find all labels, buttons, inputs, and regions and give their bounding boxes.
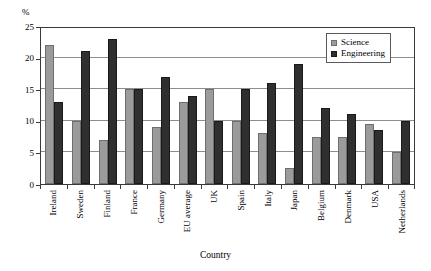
- bar-engineering: [134, 89, 143, 184]
- x-axis-category-label: Netherlands: [397, 190, 406, 233]
- bar-science: [392, 152, 401, 184]
- x-axis-label-cell: Denmark: [335, 190, 362, 246]
- bar-engineering: [267, 83, 276, 184]
- bar-group: [227, 28, 254, 184]
- legend-swatch-icon: [331, 51, 337, 57]
- bar-science: [125, 89, 134, 184]
- x-axis-category-label: Sweden: [76, 190, 85, 219]
- bar-engineering: [374, 130, 383, 184]
- bar-engineering: [294, 64, 303, 184]
- x-axis-category-label: France: [129, 190, 138, 215]
- bar-science: [99, 140, 108, 184]
- legend-label: Science: [341, 37, 369, 48]
- x-axis-label-cell: Sweden: [67, 190, 94, 246]
- bar-engineering: [321, 108, 330, 184]
- legend-swatch-icon: [331, 40, 337, 46]
- x-axis-label-cell: USA: [361, 190, 388, 246]
- x-axis-title: Country: [0, 250, 431, 260]
- x-axis-label-cell: Spain: [227, 190, 254, 246]
- bar-group: [254, 28, 281, 184]
- bar-group: [94, 28, 121, 184]
- bar-engineering: [214, 121, 223, 184]
- x-axis-label-cell: Japan: [281, 190, 308, 246]
- bar-science: [258, 133, 267, 184]
- y-axis-tick-label: 0: [8, 181, 34, 190]
- bar-group: [387, 28, 414, 184]
- bar-science: [312, 137, 321, 184]
- bar-science: [45, 45, 54, 184]
- x-axis-label-cell: Finland: [94, 190, 121, 246]
- x-axis-label-cell: Netherlands: [388, 190, 415, 246]
- bar-engineering: [54, 102, 63, 184]
- y-axis-tick-label: 20: [8, 54, 34, 63]
- x-axis-category-label: Germany: [156, 190, 165, 224]
- bar-group: [281, 28, 308, 184]
- x-axis-label-cell: EU average: [174, 190, 201, 246]
- bar-science: [72, 121, 81, 184]
- bar-group: [41, 28, 68, 184]
- chart-legend: ScienceEngineering: [326, 33, 391, 63]
- bar-engineering: [81, 51, 90, 184]
- x-axis-label-cell: Germany: [147, 190, 174, 246]
- bar-engineering: [188, 96, 197, 184]
- legend-label: Engineering: [341, 48, 385, 59]
- bar-science: [152, 127, 161, 184]
- bar-science: [365, 124, 374, 184]
- x-axis-category-label: Italy: [263, 190, 272, 207]
- x-axis-category-label: Belgium: [317, 190, 326, 221]
- y-axis-unit-label: %: [22, 8, 30, 17]
- bar-engineering: [347, 114, 356, 184]
- x-axis-category-label: Spain: [236, 190, 245, 211]
- y-axis-tick-label: 10: [8, 117, 34, 126]
- bar-group: [68, 28, 95, 184]
- x-axis-label-cell: France: [120, 190, 147, 246]
- x-axis-label-cell: Ireland: [40, 190, 67, 246]
- x-axis-category-label: USA: [370, 190, 379, 208]
- bar-chart-figure: % 0510152025 IrelandSwedenFinlandFranceG…: [0, 0, 431, 271]
- x-axis-category-label: Denmark: [343, 190, 352, 224]
- x-axis-label-cell: Belgium: [308, 190, 335, 246]
- x-axis-category-label: EU average: [183, 190, 192, 232]
- bar-science: [338, 137, 347, 184]
- bar-science: [179, 102, 188, 184]
- x-axis-label-cell: Italy: [254, 190, 281, 246]
- x-axis-label-cell: UK: [201, 190, 228, 246]
- bar-group: [121, 28, 148, 184]
- bar-science: [205, 89, 214, 184]
- legend-item: Engineering: [331, 48, 385, 59]
- y-axis-tick-label: 25: [8, 23, 34, 32]
- x-axis-category-label: Ireland: [49, 190, 58, 215]
- bar-group: [201, 28, 228, 184]
- x-axis-category-labels: IrelandSwedenFinlandFranceGermanyEU aver…: [40, 190, 415, 246]
- bar-group: [174, 28, 201, 184]
- y-axis-tick-label: 5: [8, 149, 34, 158]
- x-axis-category-label: UK: [210, 190, 219, 203]
- x-axis-category-label: Finland: [102, 190, 111, 218]
- bar-engineering: [241, 89, 250, 184]
- bar-engineering: [401, 121, 410, 184]
- y-axis-tick-label: 15: [8, 86, 34, 95]
- bar-engineering: [108, 39, 117, 184]
- x-axis-category-label: Japan: [290, 190, 299, 211]
- bar-engineering: [161, 77, 170, 184]
- bar-science: [285, 168, 294, 184]
- bar-group: [148, 28, 175, 184]
- bar-science: [232, 121, 241, 184]
- legend-item: Science: [331, 37, 385, 48]
